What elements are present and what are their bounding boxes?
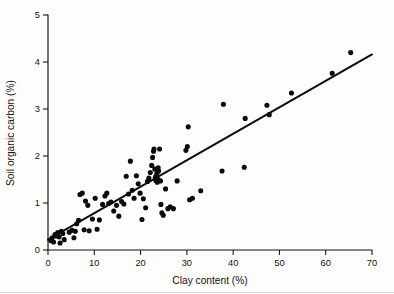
data-point: [111, 208, 116, 213]
data-point: [264, 103, 269, 108]
data-point: [87, 228, 92, 233]
data-point: [141, 196, 146, 201]
data-point: [158, 202, 163, 207]
data-point: [198, 188, 203, 193]
data-point: [62, 237, 67, 242]
data-point: [157, 146, 162, 151]
data-point: [186, 124, 191, 129]
data-point: [51, 239, 56, 244]
data-point: [128, 159, 133, 164]
data-point: [93, 196, 98, 201]
x-axis-title: Clay content (%): [172, 275, 247, 286]
y-tick-label: 5: [35, 10, 40, 20]
data-point: [348, 50, 353, 55]
data-point: [134, 173, 139, 178]
y-tick-label: 1: [35, 198, 40, 208]
data-point: [85, 203, 90, 208]
data-point: [156, 168, 161, 173]
data-point: [95, 227, 100, 232]
chart-figure: 012345 010203040506070 Clay content (%) …: [0, 0, 394, 294]
data-point: [139, 217, 144, 222]
data-point: [132, 196, 137, 201]
data-point: [90, 216, 95, 221]
x-axis-ticks: 010203040506070: [45, 250, 377, 268]
axis-lines: [48, 15, 372, 250]
data-point: [151, 146, 156, 151]
data-point: [116, 214, 121, 219]
data-point: [163, 186, 168, 191]
data-points-layer: [48, 50, 353, 245]
data-point: [136, 181, 141, 186]
data-point: [138, 191, 143, 196]
data-point: [185, 144, 190, 149]
x-tick-label: 50: [274, 258, 284, 268]
y-tick-label: 3: [35, 104, 40, 114]
data-point: [73, 229, 78, 234]
data-point: [221, 102, 226, 107]
data-point: [150, 155, 155, 160]
data-point: [100, 202, 105, 207]
x-tick-label: 10: [89, 258, 99, 268]
x-tick-label: 30: [182, 258, 192, 268]
data-point: [171, 206, 176, 211]
x-tick-label: 60: [321, 258, 331, 268]
y-axis-ticks: 012345: [35, 10, 48, 255]
data-point: [80, 191, 85, 196]
data-point: [289, 90, 294, 95]
y-axis-title: Soil organic carbon (%): [5, 80, 16, 186]
scatter-plot-canvas: 012345 010203040506070 Clay content (%) …: [0, 0, 394, 294]
data-point: [97, 217, 102, 222]
x-tick-label: 20: [135, 258, 145, 268]
data-point: [243, 116, 248, 121]
data-point: [124, 174, 129, 179]
data-point: [104, 191, 109, 196]
data-point: [121, 201, 126, 206]
x-tick-label: 40: [228, 258, 238, 268]
data-point: [190, 196, 195, 201]
y-tick-label: 0: [35, 245, 40, 255]
y-tick-label: 2: [35, 151, 40, 161]
data-point: [82, 227, 87, 232]
data-point: [175, 178, 180, 183]
data-point: [148, 170, 153, 175]
x-tick-label: 0: [45, 258, 50, 268]
regression-trend-line: [48, 54, 372, 239]
y-tick-label: 4: [35, 57, 40, 67]
data-point: [143, 205, 148, 210]
data-point: [242, 165, 247, 170]
x-tick-label: 70: [367, 258, 377, 268]
data-point: [161, 213, 166, 218]
data-point: [219, 168, 224, 173]
data-point: [158, 178, 163, 183]
data-point: [114, 203, 119, 208]
data-point: [57, 240, 62, 245]
data-point: [71, 235, 76, 240]
